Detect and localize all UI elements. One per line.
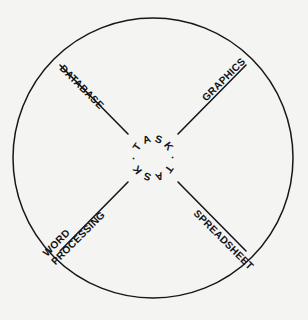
spoke-line-spreadsheet [178,182,246,251]
wheel-svg: DATABASE GRAPHICS SPREADSHEET WORD PROCE… [0,0,308,320]
center-task-ring: TASK·TASK· [127,132,179,184]
center-ring-letter: T [162,163,176,176]
center-ring-letter: A [154,170,165,184]
center-ring-separator: · [167,156,179,160]
spoke-label-database-group: DATABASE [58,63,106,111]
spoke-label-spreadsheet: SPREADSHEET [192,208,256,272]
center-ring-letter: A [141,132,152,146]
spoke-label-spreadsheet-group: SPREADSHEET [192,208,256,272]
spoke-label-graphics-group: GRAPHICS [200,56,248,104]
center-ring-letter: S [142,170,152,184]
spoke-label-word-processing-group: WORD PROCESSING [41,200,107,266]
center-ring-separator: · [127,156,139,160]
center-ring-letter: K [130,163,144,177]
spoke-label-graphics: GRAPHICS [200,56,248,104]
task-wheel-diagram: DATABASE GRAPHICS SPREADSHEET WORD PROCE… [0,0,308,320]
spoke-line-graphics [178,65,246,134]
center-ring-letter: T [130,140,144,153]
spoke-label-database: DATABASE [58,63,106,111]
center-ring-letter: S [154,132,164,146]
center-ring-letter: K [162,139,176,153]
